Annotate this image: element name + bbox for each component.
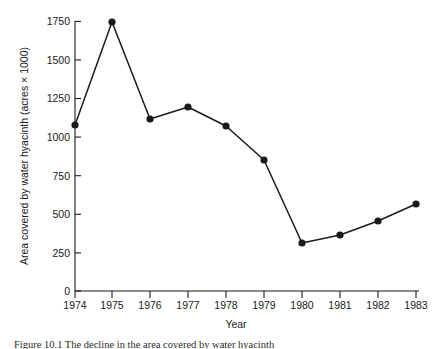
- x-tick-label: 1983: [404, 299, 428, 311]
- y-tick-label: 250: [52, 247, 70, 259]
- data-point: [260, 156, 267, 163]
- x-tick-label: 1975: [100, 299, 124, 311]
- data-point: [298, 239, 305, 246]
- y-tick-label: 1750: [47, 15, 71, 27]
- y-axis-tick-labels: 1750 1500 1250 1000 750 500 250 0: [47, 15, 71, 297]
- data-point: [71, 121, 78, 128]
- line-chart: 1750 1500 1250 1000 750 500 250 0 1974 1…: [0, 0, 442, 330]
- data-point: [374, 217, 381, 224]
- y-tick-label: 1250: [47, 92, 71, 104]
- y-tick-label: 1000: [47, 131, 71, 143]
- data-point: [146, 115, 153, 122]
- x-tick-label: 1976: [138, 299, 162, 311]
- y-axis-ticks: [75, 21, 81, 291]
- y-tick-label: 750: [52, 170, 70, 182]
- x-axis-title: Year: [225, 318, 247, 330]
- y-tick-label: 500: [52, 208, 70, 220]
- y-tick-label: 0: [64, 285, 70, 297]
- x-tick-label: 1974: [63, 299, 87, 311]
- x-tick-label: 1981: [328, 299, 352, 311]
- figure-caption: Figure 10.1 The decline in the area cove…: [14, 339, 434, 349]
- x-axis-tick-labels: 1974 1975 1976 1977 1978 1979 1980 1981 …: [63, 299, 428, 311]
- y-tick-label: 1500: [47, 54, 71, 66]
- x-tick-label: 1980: [290, 299, 314, 311]
- x-tick-label: 1982: [366, 299, 390, 311]
- data-point: [108, 18, 115, 25]
- x-axis-ticks: [75, 291, 416, 298]
- y-axis-title: Area covered by water hyacinth (acres × …: [18, 47, 30, 265]
- data-point: [412, 200, 419, 207]
- data-point: [222, 122, 229, 129]
- x-tick-label: 1977: [176, 299, 200, 311]
- data-line-water-hyacinth: [75, 22, 416, 243]
- x-tick-label: 1978: [214, 299, 238, 311]
- figure-container: 1750 1500 1250 1000 750 500 250 0 1974 1…: [0, 0, 442, 349]
- data-point: [336, 231, 343, 238]
- data-point: [184, 103, 191, 110]
- x-tick-label: 1979: [252, 299, 276, 311]
